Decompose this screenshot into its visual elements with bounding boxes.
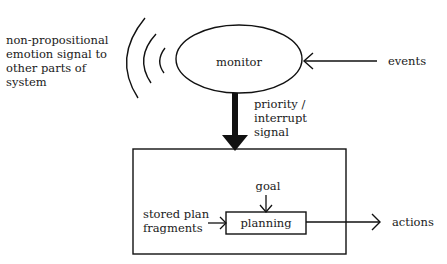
actions-edge: actions	[306, 214, 434, 230]
stored-plan-edge: stored plan fragments	[143, 207, 226, 235]
stored-plan-line-1: stored plan	[143, 207, 210, 221]
priority-interrupt-edge: priority / interrupt signal	[222, 93, 307, 151]
emotion-signal-line-3: other parts of	[6, 61, 87, 75]
signal-arc-middle	[144, 34, 156, 83]
emotion-signal-line-1: non-propositional	[6, 33, 109, 47]
goal-edge: goal	[256, 179, 281, 212]
priority-label-line-3: signal	[254, 125, 289, 139]
priority-label-line-1: priority /	[254, 97, 305, 111]
planning-label: planning	[240, 216, 292, 230]
priority-label-line-2: interrupt	[254, 111, 307, 125]
monitor-label: monitor	[216, 55, 262, 69]
signal-arc-outer	[127, 18, 145, 98]
goal-label: goal	[256, 179, 281, 193]
radiating-signal-arcs	[127, 18, 165, 98]
events-edge: events	[304, 53, 426, 69]
thick-arrow-shaft	[232, 93, 238, 138]
emotion-signal-line-4: system	[6, 75, 47, 89]
signal-arc-inner	[160, 48, 165, 73]
emotion-monitor-diagram: non-propositional emotion signal to othe…	[0, 0, 447, 264]
actions-label: actions	[392, 215, 434, 229]
planning-node: planning	[226, 212, 306, 234]
emotion-signal-label: non-propositional emotion signal to othe…	[6, 33, 109, 89]
control-system-box	[133, 149, 346, 254]
events-label: events	[388, 54, 426, 68]
monitor-node: monitor	[176, 25, 302, 93]
emotion-signal-line-2: emotion signal to	[6, 47, 107, 61]
stored-plan-line-2: fragments	[143, 221, 203, 235]
